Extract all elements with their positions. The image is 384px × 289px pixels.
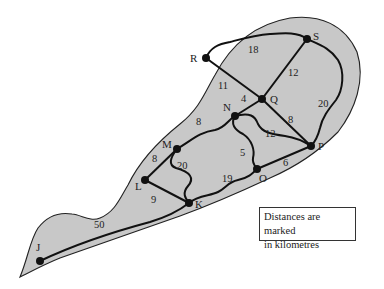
label-R: R [190,52,198,64]
weight-R-Q: 11 [218,80,228,91]
weight-N-P: 12 [265,128,276,139]
label-J: J [36,241,41,253]
note-line-2: in kilometres [264,238,351,252]
weight-O-P: 6 [283,157,288,168]
label-O: O [259,172,267,184]
label-K: K [195,198,203,210]
node-Q [258,95,266,103]
label-L: L [135,180,142,192]
node-L [141,176,149,184]
weight-M-N: 8 [196,116,201,127]
note-line-1: Distances are marked [264,210,351,238]
weight-S-Q: 12 [288,67,299,78]
node-J [36,257,44,265]
weight-M-K: 20 [177,160,188,171]
weight-Q-P: 8 [288,114,293,125]
node-R [202,54,210,62]
label-P: P [318,140,324,152]
weight-N-Q: 4 [241,93,247,104]
label-M: M [162,138,172,150]
weight-R-S: 18 [248,44,259,55]
label-N: N [223,101,231,113]
distance-note: Distances are marked in kilometres [259,207,356,241]
weight-K-O: 19 [222,173,233,184]
weight-L-K: 9 [151,194,156,205]
node-P [307,142,315,150]
node-N [231,112,239,120]
weight-J-K: 50 [94,219,105,230]
weight-L-M: 8 [152,153,157,164]
weight-S-P: 20 [318,98,329,109]
label-Q: Q [270,93,278,105]
weight-N-O: 5 [240,147,245,158]
node-M [173,145,181,153]
node-S [303,35,311,43]
label-S: S [313,30,319,42]
node-K [185,199,193,207]
